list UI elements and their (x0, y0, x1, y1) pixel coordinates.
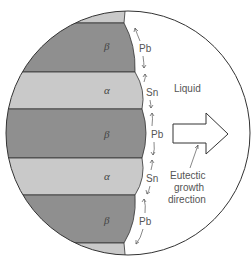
growth-label-line-1: Eutectic (170, 170, 206, 181)
layer-beta-3 (0, 195, 135, 243)
phase-label-beta-3: β (103, 214, 110, 226)
phase-label-beta-2: β (103, 128, 110, 140)
eutectic-diagram: β α β α β Pb Sn Pb Sn Pb Liquid Eutecti (0, 0, 251, 265)
growth-label-line-2: growth (174, 182, 204, 193)
phase-label-alpha-1: α (104, 84, 110, 96)
layer-alpha-2 (0, 158, 143, 195)
diffusion-label-pb-2: Pb (151, 129, 164, 140)
diffusion-label-sn-2: Sn (146, 173, 158, 184)
layer-alpha-bottom-sliver (0, 243, 126, 265)
growth-label-line-3: direction (168, 194, 206, 205)
layer-beta-1 (0, 23, 135, 72)
liquid-label: Liquid (174, 83, 201, 94)
phase-label-beta-1: β (103, 40, 110, 52)
diffusion-label-sn-1: Sn (146, 87, 158, 98)
layer-alpha-top-sliver (0, 0, 126, 23)
diffusion-label-pb-3: Pb (139, 216, 152, 227)
layer-alpha-1 (0, 72, 143, 109)
diffusion-label-pb-1: Pb (139, 43, 152, 54)
layer-beta-2 (0, 109, 146, 158)
phase-label-alpha-2: α (104, 170, 110, 182)
